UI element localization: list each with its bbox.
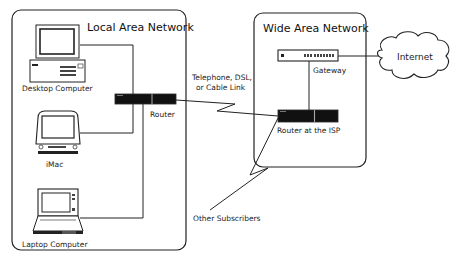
router-icon[interactable] xyxy=(115,94,176,104)
router-label: Router xyxy=(150,110,175,119)
gateway-label: Gateway xyxy=(313,66,346,75)
lan-title: Local Area Network xyxy=(87,21,194,34)
laptop-icon xyxy=(33,189,83,234)
imac-icon xyxy=(36,111,80,154)
imac-label: iMac xyxy=(46,160,63,169)
other-subscribers-label: Other Subscribers xyxy=(193,214,261,223)
isp-router-icon[interactable] xyxy=(278,110,338,122)
isp-router-label: Router at the ISP xyxy=(277,126,340,135)
desktop-computer-label: Desktop Computer xyxy=(22,84,93,93)
gateway-icon[interactable] xyxy=(278,50,338,61)
wan-boundary xyxy=(254,13,366,167)
other-subscribers-link xyxy=(210,118,278,210)
laptop-computer-label: Laptop Computer xyxy=(22,240,88,249)
desktop-computer-icon xyxy=(30,25,85,82)
link-label-line2: or Cable Link xyxy=(196,83,245,92)
lan-cables xyxy=(80,45,143,218)
link-label-line1: Telephone, DSL, xyxy=(192,73,252,82)
wan-title: Wide Area Network xyxy=(263,22,369,35)
internet-label: Internet xyxy=(397,52,433,62)
telephone-dsl-cable-link xyxy=(176,100,278,116)
